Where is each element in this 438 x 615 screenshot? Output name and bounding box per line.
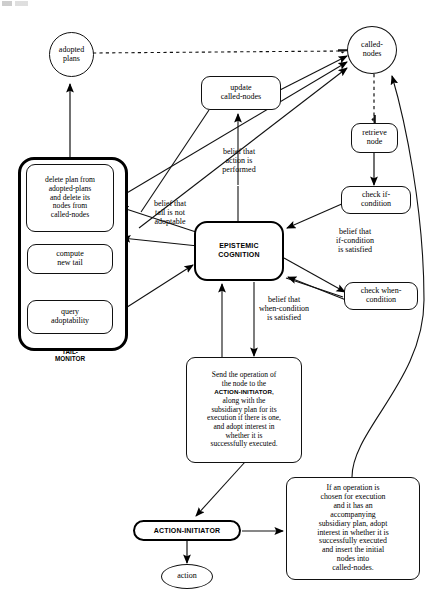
- edge-label-belief-when-condition-satisfied: belief that when-condition is satisfied: [236, 296, 332, 322]
- node-retrieve-node-label: retrieve node: [362, 129, 386, 146]
- node-compute-new-tail-label: compute new tail: [56, 250, 84, 267]
- node-check-if-condition-label: check if- condition: [361, 191, 391, 208]
- edge-epistemic-to-check-when: [284, 258, 345, 292]
- edge-update-from-lower-left: [141, 110, 209, 212]
- node-called-nodes-label: called- nodes: [361, 41, 383, 58]
- node-check-when-condition-label: check when- condition: [361, 287, 402, 304]
- node-adopted-plans[interactable]: adopted plans: [49, 32, 94, 77]
- node-epistemic-cognition-label: EPISTEMIC COGNITION: [218, 242, 259, 260]
- node-delete-plan-label: delete plan from adopted-plans and delet…: [45, 176, 95, 219]
- send-op-line-1: Send the operation of: [212, 370, 276, 379]
- node-query-adoptability[interactable]: query adoptability: [27, 300, 113, 334]
- send-op-line-3: ACTION-INITIATOR,: [214, 388, 274, 395]
- edge-check-if-to-epistemic: [287, 203, 344, 228]
- node-update-called-nodes-label: update called-nodes: [221, 84, 261, 101]
- node-action-label: action: [177, 572, 197, 581]
- node-called-nodes[interactable]: called- nodes: [347, 26, 397, 74]
- edge-send-operation-to-action-initiator: [196, 462, 245, 516]
- edge-adopted-plans-to-called-nodes: [93, 51, 343, 53]
- node-epistemic-cognition[interactable]: EPISTEMIC COGNITION: [194, 221, 284, 281]
- send-op-line-5: subsidiary plan for its: [211, 405, 276, 414]
- node-compute-new-tail[interactable]: compute new tail: [27, 244, 113, 274]
- edge-epistemic-to-compute-tail: [122, 238, 198, 246]
- send-op-line-2: the node to the: [222, 379, 266, 388]
- node-check-if-condition[interactable]: check if- condition: [341, 186, 411, 214]
- node-action-initiator-label: ACTION-INITIATOR: [154, 527, 221, 535]
- node-update-called-nodes[interactable]: update called-nodes: [201, 76, 281, 110]
- node-if-operation-chosen[interactable]: If an operation is chosen for execution …: [286, 477, 420, 580]
- node-delete-plan[interactable]: delete plan from adopted-plans and delet…: [26, 164, 114, 232]
- edge-label-belief-action-performed: belief that action is performed: [201, 148, 277, 174]
- edge-label-belief-if-condition-satisfied: belief that if-condition is satisfied: [316, 228, 394, 254]
- node-check-when-condition[interactable]: check when- condition: [344, 282, 418, 310]
- send-op-line-7: and adopt interest in: [213, 422, 274, 431]
- node-query-adoptability-label: query adoptability: [51, 308, 89, 325]
- send-op-line-4: along with the: [223, 396, 266, 405]
- node-if-operation-chosen-label: If an operation is chosen for execution …: [317, 484, 388, 573]
- diagram-canvas: up to adopted-plans --> called-nodes -->…: [0, 0, 438, 615]
- node-action[interactable]: action: [161, 564, 213, 589]
- edge-label-belief-tail-not-adoptable: belief that tail is not adoptable: [137, 200, 203, 226]
- node-send-operation[interactable]: Send the operation of the node to the AC…: [186, 357, 302, 463]
- node-retrieve-node[interactable]: retrieve node: [351, 123, 398, 153]
- node-send-operation-text: Send the operation of the node to the AC…: [207, 371, 281, 449]
- send-op-line-9: successfully executed.: [210, 439, 277, 448]
- node-action-initiator[interactable]: ACTION-INITIATOR: [133, 520, 241, 541]
- node-adopted-plans-label: adopted plans: [59, 46, 84, 63]
- group-tail-monitor-caption: TAIL- MONITOR: [40, 349, 100, 362]
- edge-update-to-called-nodes: [280, 56, 347, 90]
- send-op-line-8: whether it is: [225, 431, 262, 440]
- send-op-line-6: execution if there is one,: [207, 413, 281, 422]
